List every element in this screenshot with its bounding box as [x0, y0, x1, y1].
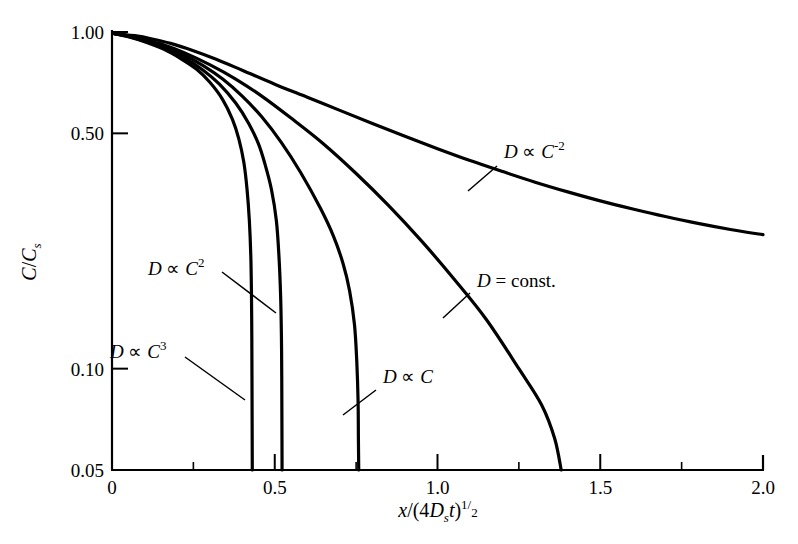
label-d-prop-c-minus-2-prop: ∝	[518, 141, 542, 162]
label-d-prop-c-c: C	[420, 366, 433, 387]
label-d-prop-c-prop: ∝	[397, 366, 421, 387]
label-d-prop-c3-exp: 3	[160, 338, 167, 353]
y-tick-label-0.10: 0.10	[71, 359, 104, 380]
label-d-prop-c2: D ∝ C2	[147, 255, 204, 279]
y-axis-title-c2: C	[18, 248, 40, 262]
x-tick-label-2.0: 2.0	[751, 477, 775, 498]
label-d-prop-c2-exp: 2	[198, 255, 205, 270]
x-axis-title-open: /(4	[407, 499, 429, 522]
label-d-prop-c3-prop: ∝	[124, 341, 148, 362]
label-d-prop-c2-d: D	[147, 258, 162, 279]
label-d-prop-c-d: D	[382, 366, 397, 387]
y-tick-label-0.50: 0.50	[71, 123, 104, 144]
label-d-prop-c2-prop: ∝	[162, 258, 186, 279]
x-axis-title-d: D	[428, 499, 444, 521]
y-axis-title-sub: s	[29, 243, 44, 248]
x-axis-title-close: )	[454, 499, 461, 522]
label-d-prop-c-minus-2-c: C	[541, 141, 554, 162]
y-tick-label-0.05: 0.05	[71, 460, 104, 481]
label-d-prop-c3-c: C	[147, 341, 160, 362]
x-axis-title-exp-den: 2	[471, 505, 478, 520]
x-tick-label-1.0: 1.0	[426, 477, 450, 498]
x-axis-title-x: x	[397, 499, 407, 521]
x-tick-label-0: 0	[107, 477, 117, 498]
label-d-const-eq: = const.	[491, 270, 556, 291]
label-d-prop-c3: D ∝ C3	[109, 338, 166, 362]
x-tick-label-1.5: 1.5	[588, 477, 612, 498]
label-d-prop-c: D ∝ C	[382, 366, 433, 387]
x-tick-label-0.5: 0.5	[263, 477, 287, 498]
label-d-const-d: D	[476, 270, 491, 291]
label-d-prop-c3-d: D	[109, 341, 124, 362]
label-d-prop-c-minus-2-exp: -2	[554, 138, 565, 153]
figure-container: 1.000.500.100.05 00.51.01.52.0 D ∝ C-2D …	[0, 0, 798, 544]
diffusion-concentration-profile-chart: 1.000.500.100.05 00.51.01.52.0 D ∝ C-2D …	[0, 0, 798, 544]
chart-background	[0, 0, 798, 544]
y-axis-title-c1: C	[18, 267, 40, 281]
label-d-prop-c2-c: C	[185, 258, 198, 279]
label-d-const: D = const.	[476, 270, 556, 291]
y-tick-label-1.00: 1.00	[71, 22, 104, 43]
label-d-prop-c-minus-2-d: D	[503, 141, 518, 162]
